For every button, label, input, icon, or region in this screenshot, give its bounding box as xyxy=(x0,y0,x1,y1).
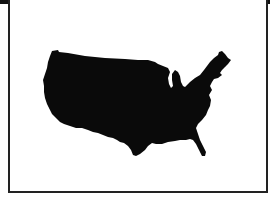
contiguous-us-shape xyxy=(43,50,231,156)
us-map-silhouette xyxy=(0,0,270,205)
